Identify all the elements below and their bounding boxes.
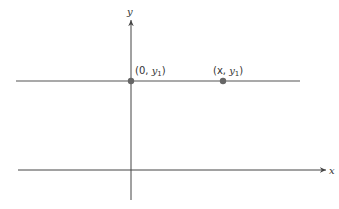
y-axis-label: y xyxy=(126,6,133,17)
point-x-y1-label: (x, y1) xyxy=(213,65,243,78)
coordinate-diagram: x y (0, y1) (x, y1) xyxy=(0,0,339,209)
x-axis-label: x xyxy=(329,165,335,176)
point-zero-y1-label: (0, y1) xyxy=(135,65,166,78)
point-zero-y1 xyxy=(128,78,134,84)
point-x-y1 xyxy=(220,78,226,84)
